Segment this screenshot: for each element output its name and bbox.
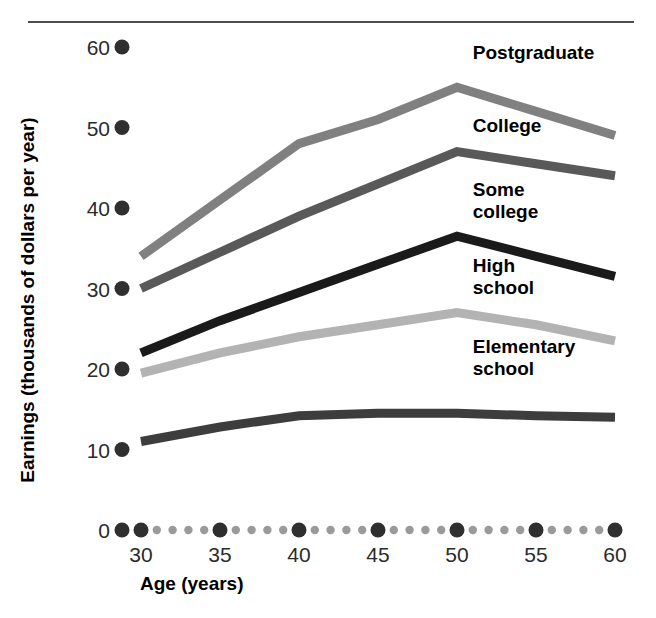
- x-tick-dot-minor: [516, 526, 524, 534]
- y-tick-label: 60: [87, 36, 110, 59]
- series-label-some-college: Some: [473, 179, 525, 200]
- y-tick-dot: [115, 201, 130, 216]
- x-tick-dot-minor: [247, 526, 255, 534]
- x-tick-dot-minor: [548, 526, 556, 534]
- series-label-elementary-school: school: [473, 358, 534, 379]
- y-tick-dot: [115, 362, 130, 377]
- y-tick-dot: [115, 281, 130, 296]
- x-tick-dot-minor: [342, 526, 350, 534]
- x-tick-dot-minor: [184, 526, 192, 534]
- series-label-high-school: school: [473, 277, 534, 298]
- y-tick-dot: [115, 40, 130, 55]
- x-tick-dot-minor: [405, 526, 413, 534]
- x-tick-label: 40: [287, 543, 310, 566]
- x-tick-label: 55: [524, 543, 547, 566]
- earnings-by-education-chart: Earnings (thousands of dollars per year)…: [0, 0, 656, 618]
- x-tick-dot-major: [608, 523, 623, 538]
- y-tick-label: 30: [87, 278, 110, 301]
- x-tick-dot-minor: [200, 526, 208, 534]
- x-tick-dot-minor: [168, 526, 176, 534]
- x-tick-label: 60: [603, 543, 626, 566]
- x-tick-dot-minor: [390, 526, 398, 534]
- x-tick-dot-minor: [153, 526, 161, 534]
- y-tick-label: 10: [87, 439, 110, 462]
- x-tick-dot-minor: [484, 526, 492, 534]
- x-tick-dot-minor: [326, 526, 334, 534]
- series-label-some-college: college: [473, 201, 538, 222]
- series-label-college: College: [473, 115, 542, 136]
- x-tick-dot-minor: [437, 526, 445, 534]
- y-tick-label: 50: [87, 117, 110, 140]
- x-tick-dot-minor: [232, 526, 240, 534]
- x-tick-dot-minor: [469, 526, 477, 534]
- x-tick-dot-minor: [563, 526, 571, 534]
- x-tick-label: 50: [445, 543, 468, 566]
- series-label-elementary-school: Elementary: [473, 336, 576, 357]
- series-label-high-school: High: [473, 255, 515, 276]
- y-axis-title-text: Earnings (thousands of dollars per year): [17, 117, 38, 482]
- y-axis-title: Earnings (thousands of dollars per year): [17, 117, 38, 482]
- x-tick-dot-minor: [595, 526, 603, 534]
- x-tick-dot-major: [213, 523, 228, 538]
- x-tick-label: 35: [208, 543, 231, 566]
- x-tick-dot-minor: [358, 526, 366, 534]
- x-tick-label: 45: [366, 543, 389, 566]
- y-tick-label: 20: [87, 358, 110, 381]
- x-tick-dot-minor: [500, 526, 508, 534]
- y-tick-label: 40: [87, 197, 110, 220]
- x-tick-dot-major: [371, 523, 386, 538]
- x-tick-dot-major: [529, 523, 544, 538]
- x-tick-dot-major: [134, 523, 149, 538]
- y-tick-dot: [115, 442, 130, 457]
- y-tick-dot: [115, 120, 130, 135]
- series-label-postgraduate: Postgraduate: [473, 42, 594, 63]
- x-tick-dot-major: [450, 523, 465, 538]
- x-tick-dot-minor: [421, 526, 429, 534]
- x-tick-dot-minor: [279, 526, 287, 534]
- y-tick-dot: [115, 523, 130, 538]
- x-tick-dot-minor: [263, 526, 271, 534]
- x-axis-title-text: Age (years): [140, 573, 244, 594]
- x-tick-dot-minor: [579, 526, 587, 534]
- y-tick-label: 0: [98, 519, 110, 542]
- x-tick-label: 30: [129, 543, 152, 566]
- x-tick-dot-major: [292, 523, 307, 538]
- x-tick-dot-minor: [311, 526, 319, 534]
